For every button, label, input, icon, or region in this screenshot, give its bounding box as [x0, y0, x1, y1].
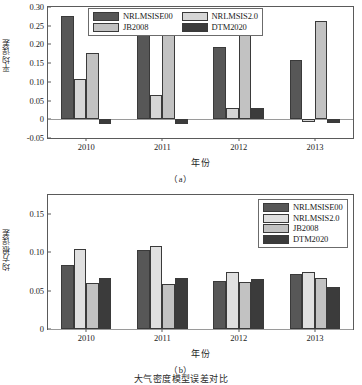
chart-panel-a: 平均误差 0.300.250.200.150.100.050-0.0520102… [0, 0, 362, 188]
legend-label: NRLMSISE00 [123, 12, 173, 21]
legend-swatch-icon [263, 214, 289, 223]
bar [175, 119, 188, 123]
legend-label: DTM2020 [212, 23, 247, 32]
y-tick-mark [48, 100, 51, 101]
bar [327, 119, 340, 123]
x-tick-mark [162, 138, 163, 141]
legend-item: NRLMSIS2.0 [263, 214, 343, 223]
y-tick-mark [48, 44, 51, 45]
y-tick-label: 0.05 [30, 286, 48, 295]
x-tick-mark [86, 138, 87, 141]
y-tick-label: 0.05 [30, 96, 48, 105]
x-tick-mark [162, 329, 163, 332]
chart-panel-b: 均方根误差 0.150.100.0502010201120122013 NRLM… [0, 188, 362, 382]
y-tick-label: 0.10 [30, 78, 48, 87]
legend-item: NRLMSISE00 [263, 203, 343, 212]
x-tick-mark [314, 329, 315, 332]
bar [290, 274, 303, 329]
y-tick-mark [48, 7, 51, 8]
y-tick-label: 0.25 [30, 21, 48, 30]
legend-item: JB2008 [93, 23, 173, 32]
bar [162, 31, 175, 120]
x-tick-mark [238, 138, 239, 141]
figure-caption: 大气密度模型误差对比 [0, 372, 362, 385]
bar [99, 278, 112, 329]
y-tick-mark [48, 81, 51, 82]
zero-baseline [48, 329, 353, 330]
legend-item: DTM2020 [182, 23, 258, 32]
subcaption-a: （a） [0, 172, 362, 184]
bar [290, 60, 303, 119]
y-tick-label: 0.15 [30, 210, 48, 219]
y-tick-mark [48, 63, 51, 64]
bar [74, 79, 87, 119]
bar [239, 35, 252, 119]
legend-swatch-icon [263, 224, 289, 233]
bar [86, 283, 99, 329]
bar [315, 278, 328, 329]
y-tick-mark [48, 252, 51, 253]
bar [86, 53, 99, 120]
bar [150, 246, 163, 329]
bar [137, 250, 150, 329]
y-tick-mark [48, 25, 51, 26]
bar [315, 21, 328, 119]
legend-swatch-icon [93, 23, 119, 32]
legend-label: JB2008 [123, 23, 148, 32]
bar [213, 281, 226, 329]
x-tick-label: 2013 [306, 143, 323, 152]
legend-item: DTM2020 [263, 235, 343, 244]
legend-item: JB2008 [263, 224, 343, 233]
y-tick-label: 0 [40, 115, 48, 124]
bar [302, 119, 315, 121]
legend-swatch-icon [182, 12, 208, 21]
bar [226, 272, 239, 329]
x-tick-label: 2013 [306, 334, 323, 343]
x-tick-mark [314, 138, 315, 141]
legend-item: NRLMSISE00 [93, 12, 173, 21]
bar [61, 265, 74, 329]
legend-label: NRLMSIS2.0 [293, 214, 339, 223]
bar [239, 282, 252, 329]
legend-swatch-icon [263, 235, 289, 244]
x-tick-label: 2011 [154, 334, 171, 343]
y-tick-label: 0.20 [30, 40, 48, 49]
bar [74, 249, 87, 329]
legend-label: JB2008 [293, 224, 318, 233]
y-tick-mark [48, 290, 51, 291]
legend-label: NRLMSIS2.0 [212, 12, 258, 21]
x-tick-label: 2012 [230, 334, 247, 343]
y-tick-label: -0.05 [27, 134, 48, 143]
bar [302, 272, 315, 329]
y-tick-mark [48, 138, 51, 139]
legend-b: NRLMSISE00NRLMSIS2.0JB2008DTM2020 [258, 199, 348, 248]
y-tick-label: 0 [40, 325, 48, 334]
x-tick-label: 2010 [78, 334, 95, 343]
y-tick-mark [48, 214, 51, 215]
legend-label: DTM2020 [293, 235, 328, 244]
bar [251, 279, 264, 329]
bar [150, 95, 163, 119]
bar [99, 119, 112, 123]
bar [213, 47, 226, 119]
x-tick-mark [238, 329, 239, 332]
bar [61, 16, 74, 119]
bar [226, 108, 239, 120]
y-tick-label: 0.15 [30, 59, 48, 68]
y-axis-label-a: 平均误差 [3, 38, 11, 72]
bar [327, 287, 340, 329]
x-axis-label-b: 年份 [47, 347, 354, 360]
bar [137, 34, 150, 119]
legend-item: NRLMSIS2.0 [182, 12, 258, 21]
legend-swatch-icon [182, 23, 208, 32]
legend-swatch-icon [93, 12, 119, 21]
x-axis-label-a: 年份 [47, 156, 354, 169]
legend-a: NRLMSISE00NRLMSIS2.0JB2008DTM2020 [88, 8, 263, 36]
x-tick-label: 2010 [78, 143, 95, 152]
x-tick-label: 2011 [154, 143, 171, 152]
x-tick-label: 2012 [230, 143, 247, 152]
bar [175, 278, 188, 329]
y-axis-label-b: 均方根误差 [3, 228, 11, 271]
x-tick-mark [86, 329, 87, 332]
